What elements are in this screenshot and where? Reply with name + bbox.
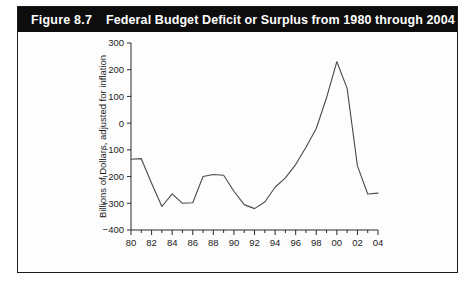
y-tick-label: 0 xyxy=(119,118,124,129)
y-axis-title-text: Billions of Dollars, adjusted for inflat… xyxy=(97,55,108,218)
x-tick-label: 80 xyxy=(126,237,137,248)
plot-area: Billions of Dollars, adjusted for inflat… xyxy=(18,32,457,272)
x-tick-label: 92 xyxy=(249,237,260,248)
x-axis-ticks: 80828486889092949698000204 xyxy=(126,230,384,248)
x-tick-label: 94 xyxy=(270,237,281,248)
x-tick-label: 88 xyxy=(208,237,219,248)
figure-title-bar: Figure 8.7 Federal Budget Deficit or Sur… xyxy=(18,7,457,32)
y-axis-title: Billions of Dollars, adjusted for inflat… xyxy=(97,55,108,218)
figure-number-label: Figure 8.7 xyxy=(31,13,92,27)
x-tick-label: 86 xyxy=(187,237,198,248)
figure-container: Figure 8.7 Federal Budget Deficit or Sur… xyxy=(17,6,458,273)
y-tick-label: 100 xyxy=(108,91,124,102)
y-tick-label: −100 xyxy=(103,144,124,155)
y-tick-label: 300 xyxy=(108,37,124,48)
y-tick-label: −400 xyxy=(103,224,124,235)
budget-deficit-line-chart: Billions of Dollars, adjusted for inflat… xyxy=(18,32,456,272)
x-tick-label: 00 xyxy=(332,237,343,248)
x-tick-label: 84 xyxy=(167,237,178,248)
y-tick-label: −200 xyxy=(103,171,124,182)
x-tick-label: 04 xyxy=(373,237,384,248)
data-series-line xyxy=(131,62,378,209)
y-tick-label: −300 xyxy=(103,198,124,209)
x-tick-label: 02 xyxy=(352,237,363,248)
x-tick-label: 96 xyxy=(290,237,301,248)
figure-title-text: Federal Budget Deficit or Surplus from 1… xyxy=(106,13,455,27)
x-tick-label: 82 xyxy=(146,237,157,248)
y-tick-label: 200 xyxy=(108,64,124,75)
x-tick-label: 90 xyxy=(229,237,240,248)
x-tick-label: 98 xyxy=(311,237,322,248)
